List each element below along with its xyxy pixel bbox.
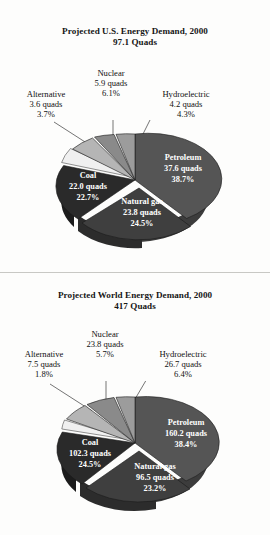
label-us-petroleum-percent: 38.7% [172, 175, 195, 184]
callout-world-hydroelectric-quads: 26.7 quads [144, 359, 222, 369]
label-world-natural-gas-name: Natural gas [134, 462, 176, 471]
callout-world-alternative-quads: 7.5 quads [10, 359, 78, 369]
label-us-natural-gas-percent: 24.5% [131, 219, 154, 228]
label-world-coal-name: Coal [82, 438, 99, 447]
chart-title-us-line1: Projected U.S. Energy Demand, 2000 [62, 26, 208, 36]
chart-title-us: Projected U.S. Energy Demand, 2000 97.1 … [0, 26, 270, 49]
callout-us-nuclear: Nuclear 5.9 quads 6.1% [78, 68, 144, 99]
label-us-petroleum-quads: 37.6 quads [164, 164, 203, 173]
label-world-petroleum-name: Petroleum [168, 418, 205, 427]
callout-us-hydroelectric-percent: 4.3% [148, 109, 224, 119]
label-us-coal-percent: 22.7% [77, 193, 100, 202]
callout-us-hydroelectric-name: Hydroelectric [148, 89, 224, 99]
label-us-coal-name: Coal [80, 171, 97, 180]
callout-world-nuclear-quads: 23.8 quads [72, 339, 138, 349]
label-us-natural-gas-quads: 23.8 quads [123, 208, 162, 217]
callout-world-hydroelectric: Hydroelectric 26.7 quads 6.4% [144, 349, 222, 380]
chart-title-us-line2: 97.1 Quads [0, 37, 270, 48]
label-world-petroleum-quads: 160.2 quads [165, 429, 208, 438]
callout-world-hydroelectric-percent: 6.4% [144, 369, 222, 379]
chart-panel-us: Projected U.S. Energy Demand, 2000 97.1 … [0, 0, 270, 272]
callout-us-nuclear-percent: 6.1% [78, 88, 144, 98]
callout-world-nuclear-name: Nuclear [72, 329, 138, 339]
label-us-coal-quads: 22.0 quads [69, 182, 108, 191]
pie-chart-world: Petroleum 160.2 quads 38.4% Coal 102.3 q… [0, 381, 270, 533]
label-world-coal-quads: 102.3 quads [69, 449, 112, 458]
callout-us-hydroelectric: Hydroelectric 4.2 quads 4.3% [148, 89, 224, 120]
pie-chart-us: Petroleum 37.6 quads 38.7% Coal 22.0 qua… [0, 120, 270, 270]
chart-title-world: Projected World Energy Demand, 2000 417 … [0, 290, 270, 313]
callout-us-alternative-quads: 3.6 quads [12, 99, 80, 109]
chart-title-world-line2: 417 Quads [0, 301, 270, 312]
callout-us-alternative: Alternative 3.6 quads 3.7% [12, 89, 80, 120]
callout-us-alternative-name: Alternative [12, 89, 80, 99]
label-world-petroleum-percent: 38.4% [175, 440, 198, 449]
callout-world-nuclear: Nuclear 23.8 quads 5.7% [72, 329, 138, 360]
label-us-petroleum-name: Petroleum [165, 153, 202, 162]
callout-us-nuclear-quads: 5.9 quads [78, 78, 144, 88]
callout-world-alternative-name: Alternative [10, 349, 78, 359]
callout-world-nuclear-percent: 5.7% [72, 349, 138, 359]
label-world-natural-gas-quads: 96.5 quads [136, 473, 175, 482]
chart-panel-world: Projected World Energy Demand, 2000 417 … [0, 273, 270, 535]
callout-us-nuclear-name: Nuclear [78, 68, 144, 78]
callout-us-alternative-percent: 3.7% [12, 109, 80, 119]
chart-title-world-line1: Projected World Energy Demand, 2000 [58, 290, 212, 300]
label-us-natural-gas-name: Natural gas [121, 197, 163, 206]
callout-world-alternative-percent: 1.8% [10, 369, 78, 379]
callout-world-alternative: Alternative 7.5 quads 1.8% [10, 349, 78, 380]
callout-world-hydroelectric-name: Hydroelectric [144, 349, 222, 359]
label-world-natural-gas-percent: 23.2% [144, 484, 167, 493]
label-world-coal-percent: 24.5% [79, 460, 102, 469]
callout-us-hydroelectric-quads: 4.2 quads [148, 99, 224, 109]
